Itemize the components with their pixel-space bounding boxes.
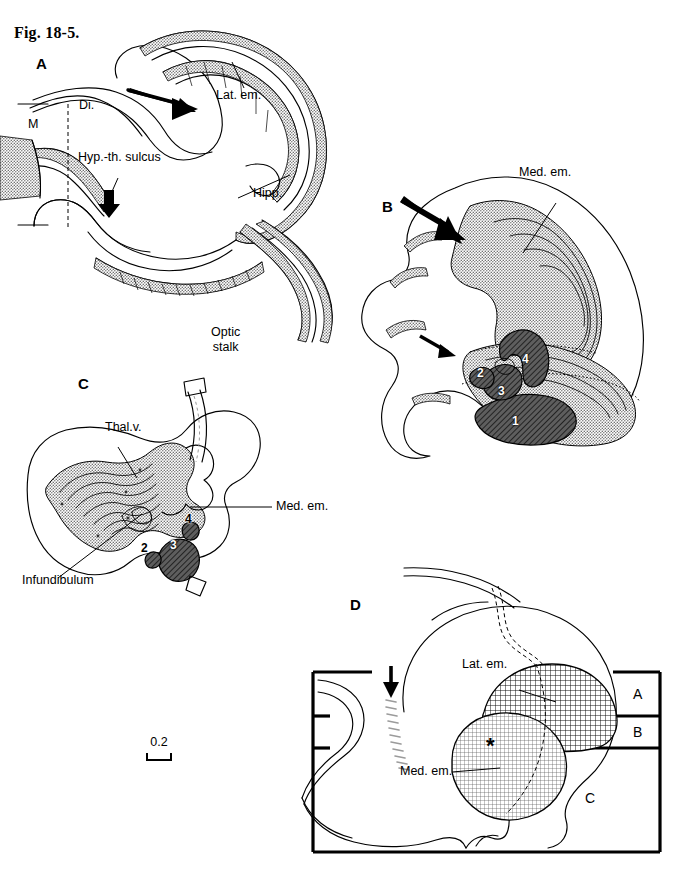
label-med-em-b: Med. em.: [519, 165, 571, 180]
nucleus-label-3-b: 3: [498, 384, 505, 398]
label-asterisk-d: *: [486, 733, 495, 759]
label-hyp-th-sulcus: Hyp.-th. sulcus: [78, 150, 161, 165]
panel-label-a: A: [36, 55, 47, 72]
label-di: Di.: [79, 98, 94, 113]
section-level-a: A: [633, 686, 642, 702]
nucleus-label-3-c: 3: [170, 538, 177, 552]
panel-label-d: D: [350, 596, 361, 613]
nucleus-label-1-b: 1: [512, 414, 519, 428]
label-m: M: [28, 117, 38, 132]
section-level-b: B: [633, 724, 642, 740]
label-optic-stalk-text: Optic stalk: [211, 325, 240, 354]
nucleus-label-2-c: 2: [141, 541, 148, 555]
figure-caption: Fig. 18-5.: [14, 24, 80, 42]
label-optic-stalk: Optic stalk: [211, 325, 240, 355]
panel-label-b: B: [382, 198, 393, 215]
scale-value: 0.2: [146, 735, 172, 749]
panel-c-drawing: [27, 378, 272, 596]
section-level-c: C: [585, 790, 595, 806]
nucleus-label-2-b: 2: [477, 366, 484, 380]
panel-b-drawing: [362, 177, 644, 458]
label-med-em-d: Med. em.: [400, 764, 452, 779]
scale-bar-line: [146, 752, 172, 761]
label-med-em-c: Med. em.: [276, 499, 328, 514]
nucleus-label-4-b: 4: [522, 352, 529, 366]
label-thal-v: Thal.v.: [105, 420, 142, 435]
figure-root: Fig. 18-5. A B C D Lat. em. Di. M Hyp.-t…: [0, 0, 675, 885]
label-lat-em-a: Lat. em.: [216, 88, 261, 103]
label-hipp: Hipp.: [253, 186, 282, 201]
scale-bar-group: 0.2: [146, 735, 172, 761]
nucleus-label-4-c: 4: [185, 512, 192, 526]
label-lat-em-d: Lat. em.: [462, 657, 507, 672]
panel-a-drawing: [0, 31, 332, 343]
label-infundibulum: Infundibulum: [22, 573, 94, 588]
figure-canvas: [0, 0, 675, 885]
panel-label-c: C: [78, 375, 89, 392]
